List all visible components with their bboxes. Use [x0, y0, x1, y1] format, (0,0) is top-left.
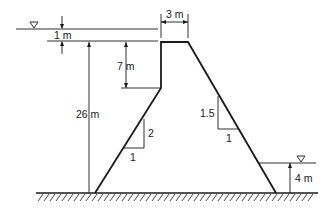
upstream-slope-rise-label: 2	[148, 127, 154, 139]
dam-cross-section-diagram: 1 m 3 m 7 m 26 m 2 1 1.5 1	[0, 0, 333, 216]
upper-face-label: 7 m	[117, 60, 135, 72]
water-surface-triangle-icon	[30, 22, 38, 28]
upstream-depth-label: 26 m	[76, 108, 100, 120]
freeboard-label: 1 m	[54, 29, 72, 41]
upstream-water-surface	[16, 22, 158, 29]
water-surface-triangle-icon	[297, 156, 305, 162]
tailwater-depth-label: 4 m	[295, 172, 313, 184]
freeboard-dimension: 1 m	[54, 16, 72, 54]
upper-face-dimension: 7 m	[117, 42, 161, 88]
downstream-slope-rise-label: 1.5	[200, 107, 215, 119]
crest-width-label: 3 m	[166, 8, 184, 20]
crest-width-dimension: 3 m	[161, 8, 188, 38]
downstream-slope-run-label: 1	[226, 132, 232, 144]
downstream-water-surface: 4 m	[259, 156, 316, 193]
upstream-slope-run-label: 1	[130, 151, 136, 163]
ground-hatching	[38, 194, 313, 201]
upstream-depth-dimension: 26 m	[76, 42, 100, 193]
ground	[36, 193, 318, 201]
